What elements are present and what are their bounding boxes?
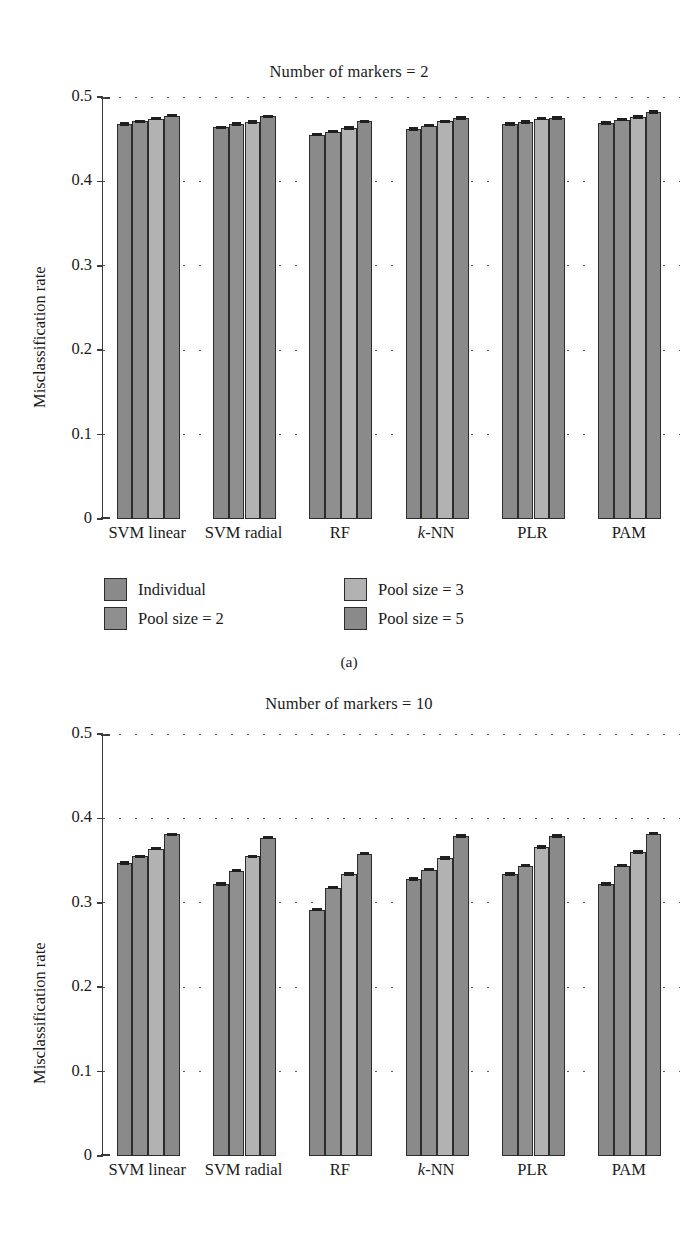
y-tick-label: 0.2 [71, 976, 92, 996]
bar [341, 128, 357, 519]
error-bar [440, 856, 450, 859]
error-bar [552, 116, 562, 119]
bar [518, 122, 534, 519]
error-bar [232, 122, 242, 125]
error-bar [328, 130, 338, 133]
error-bar [167, 833, 177, 836]
error-bar [312, 908, 322, 911]
bar [406, 129, 422, 519]
bar [260, 838, 276, 1156]
bar [132, 856, 148, 1156]
panel-a-chart: Number of markers = 2 Misclassification … [0, 0, 698, 660]
x-label-svm-radial: SVM radial [205, 1160, 282, 1180]
x-label-rf: RF [330, 1160, 350, 1180]
error-bar [312, 133, 322, 136]
error-bar [344, 126, 354, 129]
x-label-pam: PAM [612, 1160, 646, 1180]
bar [325, 132, 341, 519]
x-label-plr: PLR [517, 1160, 547, 1180]
bar [437, 858, 453, 1156]
error-bar [521, 864, 531, 867]
bar [213, 884, 229, 1156]
legend-label-pool-2: Pool size = 2 [138, 609, 224, 629]
bar [614, 120, 630, 519]
x-label-svm-linear: SVM linear [108, 523, 185, 543]
y-tick-label: 0 [84, 508, 92, 528]
error-bar [552, 834, 562, 837]
error-bar [263, 836, 273, 839]
panel-a-x-labels: SVM linearSVM radialRFk-NNPLRPAM [102, 523, 680, 547]
bar [502, 874, 518, 1156]
y-tick-label: 0 [84, 1145, 92, 1165]
panel-b-x-labels: SVM linearSVM radialRFk-NNPLRPAM [102, 1160, 680, 1184]
bar [598, 884, 614, 1156]
bar [164, 116, 180, 519]
bar [534, 119, 550, 519]
error-bar [135, 855, 145, 858]
bar [148, 119, 164, 519]
y-tick-label: 0.1 [71, 424, 92, 444]
error-bar [456, 116, 466, 119]
error-bar [120, 122, 130, 125]
legend-swatch-pool-5 [344, 607, 367, 630]
y-tick-label: 0.2 [71, 339, 92, 359]
bar [341, 874, 357, 1156]
error-bar [601, 882, 611, 885]
error-bar [328, 886, 338, 889]
error-bar [424, 124, 434, 127]
error-bar [424, 868, 434, 871]
legend-label-pool-3: Pool size = 3 [378, 580, 464, 600]
bar [406, 879, 422, 1156]
panel-a-title: Number of markers = 2 [0, 62, 698, 82]
legend-item-pool-3: Pool size = 3 [344, 578, 464, 601]
legend-item-pool-2: Pool size = 2 [104, 607, 224, 630]
panel-b-plot-area: 00.10.20.30.40.5 [102, 734, 680, 1156]
error-bar [167, 114, 177, 117]
error-bar [440, 120, 450, 123]
error-bar [505, 872, 515, 875]
panel-b-chart: Number of markers = 10 Misclassification… [0, 672, 698, 1233]
error-bar [505, 122, 515, 125]
bar [614, 866, 630, 1156]
bar [518, 866, 534, 1156]
panel-a-subcaption: (a) [0, 653, 698, 671]
panel-a-y-axis-label: Misclassification rate [30, 266, 50, 408]
legend-item-pool-5: Pool size = 5 [344, 607, 464, 630]
bar [245, 856, 261, 1156]
error-bar [216, 882, 226, 885]
x-label-svm-linear: SVM linear [108, 1160, 185, 1180]
bar [598, 123, 614, 519]
bar [646, 112, 662, 519]
error-bar [263, 115, 273, 118]
legend-label-pool-5: Pool size = 5 [378, 609, 464, 629]
error-bar [633, 115, 643, 118]
error-bar [617, 118, 627, 121]
legend-label-individual: Individual [138, 580, 206, 600]
bar [630, 117, 646, 519]
bar [213, 127, 229, 519]
error-bar [216, 126, 226, 129]
bar [245, 122, 261, 519]
bar [549, 836, 565, 1156]
bar [309, 910, 325, 1156]
y-tick-label: 0.4 [71, 807, 92, 827]
error-bar [537, 845, 547, 848]
bar [421, 870, 437, 1156]
error-bar [232, 869, 242, 872]
error-bar [601, 121, 611, 124]
error-bar [344, 872, 354, 875]
error-bar [537, 117, 547, 120]
legend-item-individual: Individual [104, 578, 206, 601]
bar [534, 847, 550, 1156]
error-bar [649, 832, 659, 835]
error-bar [360, 852, 370, 855]
bar [164, 834, 180, 1156]
bar [421, 126, 437, 519]
error-bar [151, 117, 161, 120]
bar [117, 863, 133, 1156]
error-bar [360, 120, 370, 123]
x-label-pam: PAM [612, 523, 646, 543]
y-tick-label: 0.3 [71, 892, 92, 912]
bar [357, 854, 373, 1156]
error-bar [120, 861, 130, 864]
